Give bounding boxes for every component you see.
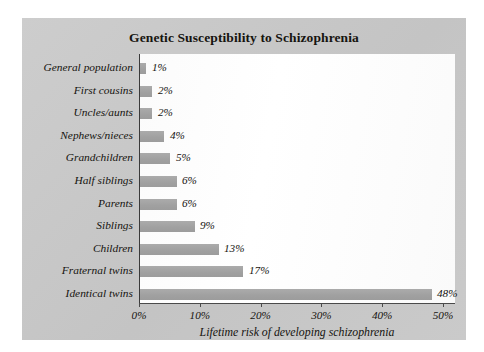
bar-value-label: 13% [224,242,245,254]
category-label: Grandchildren [22,151,133,163]
bar-row: Uncles/aunts 2% [22,103,466,126]
bar [140,176,177,187]
x-tick-mark [321,303,322,307]
x-tick-mark [200,303,201,307]
bar [140,199,177,210]
chart-title: Genetic Susceptibility to Schizophrenia [22,30,466,46]
category-label: First cousins [22,84,133,96]
category-label: Siblings [22,219,133,231]
bar-row: Parents 6% [22,194,466,217]
bar-row: Half siblings 6% [22,171,466,194]
chart-figure: Genetic Susceptibility to Schizophrenia … [22,18,466,340]
bar-row: General population 1% [22,58,466,81]
category-label: Children [22,242,133,254]
bar-row: Fraternal twins 17% [22,261,466,284]
x-tick-mark [261,303,262,307]
bar-value-label: 6% [182,197,197,209]
bar-row: Nephews/nieces 4% [22,126,466,149]
bar [140,244,219,255]
category-label: General population [22,61,133,73]
category-label: Uncles/aunts [22,106,133,118]
category-label: Fraternal twins [22,264,133,276]
category-label: Identical twins [22,287,133,299]
category-label: Nephews/nieces [22,129,133,141]
x-tick-label: 50% [433,309,454,321]
bar [140,63,146,74]
bar-value-label: 1% [152,61,167,73]
bar-row: Identical twins 48% [22,284,466,307]
x-tick-label: 20% [250,309,271,321]
bar-value-label: 17% [249,264,270,276]
x-tick-mark [382,303,383,307]
x-axis-label: Lifetime risk of developing schizophreni… [139,325,455,340]
x-tick-label: 30% [311,309,332,321]
bar-row: Grandchildren 5% [22,148,466,171]
bar [140,289,432,300]
bar [140,153,170,164]
bar-value-label: 2% [158,84,173,96]
x-tick-label: 10% [190,309,211,321]
bar [140,86,152,97]
bar-row: First cousins 2% [22,81,466,104]
x-tick-mark [139,303,140,307]
bar-value-label: 4% [170,129,185,141]
bar-row: Siblings 9% [22,216,466,239]
category-label: Half siblings [22,174,133,186]
bar-value-label: 9% [200,219,215,231]
x-tick-mark [443,303,444,307]
x-tick-label: 0% [132,309,147,321]
x-tick-label: 40% [372,309,393,321]
bar-value-label: 5% [176,151,191,163]
bar-value-label: 48% [437,287,458,299]
bar [140,131,164,142]
bar [140,266,243,277]
bar-row: Children 13% [22,239,466,262]
bar-value-label: 2% [158,106,173,118]
bar [140,108,152,119]
bar [140,221,195,232]
category-label: Parents [22,197,133,209]
bar-value-label: 6% [182,174,197,186]
